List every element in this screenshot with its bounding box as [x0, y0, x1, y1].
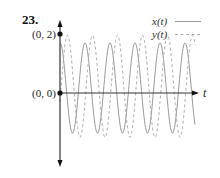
vertical-axis-down-arrow-icon: [58, 160, 63, 167]
legend-x-label: x(t): [151, 15, 168, 28]
parametric-chart: 23. t (0, 2) (0, 0) x(t) y(t): [0, 0, 220, 178]
t-axis-label: t: [203, 86, 207, 100]
point-origin-marker: [57, 90, 62, 95]
t-axis-arrow-icon: [192, 91, 199, 96]
legend-y-label: y(t): [151, 28, 168, 41]
point-0-2-marker: [57, 31, 62, 36]
problem-number: 23.: [22, 12, 38, 27]
curve-y-t: [60, 35, 195, 137]
curves-group: [60, 35, 195, 137]
vertical-axis-up-arrow-icon: [58, 20, 63, 27]
curve-x-t: [60, 43, 195, 133]
point-origin-label: (0, 0): [32, 87, 56, 100]
point-0-2-label: (0, 2): [32, 28, 56, 41]
legend: x(t) y(t): [151, 15, 201, 41]
